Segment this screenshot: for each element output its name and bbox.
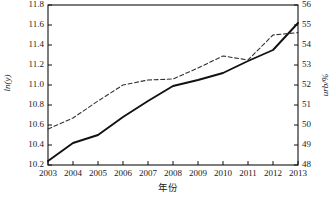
right-tick-label: 55 xyxy=(302,19,322,29)
x-tick-label: 2003 xyxy=(35,168,61,178)
axes-frame xyxy=(48,5,298,165)
x-axis-label: 年份 xyxy=(0,180,335,194)
left-tick-label: 10.6 xyxy=(16,119,44,129)
right-axis-ticks xyxy=(294,5,298,165)
left-tick-label: 11.2 xyxy=(16,59,44,69)
left-axis-ticks xyxy=(48,5,52,165)
x-tick-label: 2013 xyxy=(285,168,311,178)
x-tick-label: 2009 xyxy=(185,168,211,178)
series-line-solid xyxy=(48,23,298,161)
right-tick-label: 49 xyxy=(302,139,322,149)
chart-figure: 10.210.410.610.811.011.211.411.611.8 484… xyxy=(0,0,335,197)
x-tick-label: 2008 xyxy=(160,168,186,178)
right-axis-label: urb/% xyxy=(320,65,330,105)
left-tick-label: 11.4 xyxy=(16,39,44,49)
left-tick-label: 11.6 xyxy=(16,19,44,29)
right-tick-label: 50 xyxy=(302,119,322,129)
x-tick-label: 2004 xyxy=(60,168,86,178)
x-tick-label: 2011 xyxy=(235,168,261,178)
x-tick-label: 2007 xyxy=(135,168,161,178)
series-lines xyxy=(48,23,298,161)
right-tick-label: 54 xyxy=(302,39,322,49)
x-tick-label: 2010 xyxy=(210,168,236,178)
series-line-dashed xyxy=(48,33,298,129)
left-tick-label: 10.4 xyxy=(16,139,44,149)
right-tick-label: 53 xyxy=(302,59,322,69)
x-tick-label: 2012 xyxy=(260,168,286,178)
left-tick-label: 10.8 xyxy=(16,99,44,109)
left-tick-label: 11.8 xyxy=(16,0,44,9)
x-tick-label: 2006 xyxy=(110,168,136,178)
right-tick-label: 52 xyxy=(302,79,322,89)
bottom-axis-ticks xyxy=(48,161,298,165)
left-tick-label: 11.0 xyxy=(16,79,44,89)
right-tick-label: 51 xyxy=(302,99,322,109)
left-axis-label: ln(y) xyxy=(2,63,12,103)
right-tick-label: 56 xyxy=(302,0,322,9)
x-tick-label: 2005 xyxy=(85,168,111,178)
